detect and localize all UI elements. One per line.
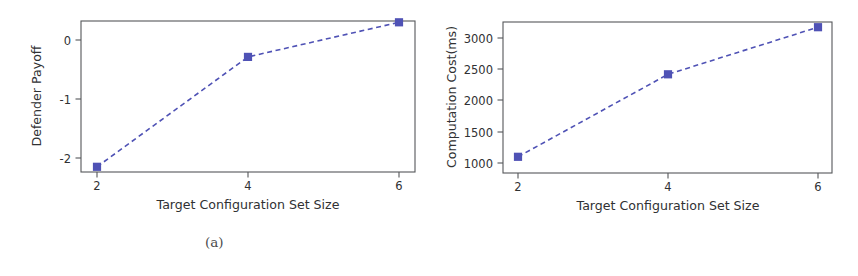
- x-tick-label: 6: [395, 179, 402, 193]
- x-tick-label: 2: [514, 180, 521, 194]
- data-series-line-a: [97, 22, 399, 167]
- x-axis-ticks-a: [97, 172, 399, 178]
- y-axis-ticks-b: [498, 38, 504, 163]
- y-tick-label: 3000: [464, 32, 493, 46]
- plot-frame-a: [81, 21, 415, 172]
- y-tick-label: 1500: [464, 126, 493, 140]
- data-point-marker: [664, 70, 672, 78]
- x-tick-label: 2: [93, 179, 100, 193]
- chart-panel-b: 3000 2500 2000 1500 1000 2 4 6 Target Co…: [430, 0, 858, 276]
- y-tick-label: -1: [60, 93, 71, 107]
- x-tick-label: 6: [814, 180, 821, 194]
- x-axis-label-a: Target Configuration Set Size: [156, 197, 340, 212]
- data-point-marker: [93, 163, 101, 171]
- y-axis-label-a: Defender Payoff: [29, 45, 44, 146]
- computation-cost-chart: 3000 2500 2000 1500 1000 2 4 6 Target Co…: [430, 0, 858, 226]
- figure-container: 0 -1 -2 2 4 6 Target Configuration Set S…: [0, 0, 858, 276]
- data-point-marker: [244, 53, 252, 61]
- y-tick-label: 2500: [464, 63, 493, 77]
- y-axis-label-b: Computation Cost(ms): [444, 26, 459, 168]
- y-tick-label: 1000: [464, 157, 493, 171]
- y-axis-ticks-a: [76, 40, 82, 158]
- y-tick-label: -2: [60, 152, 71, 166]
- x-tick-label: 4: [664, 180, 671, 194]
- data-point-marker: [814, 23, 822, 31]
- subfigure-caption-a: (a): [205, 234, 224, 250]
- y-tick-label: 2000: [464, 94, 493, 108]
- data-series-line-b: [518, 27, 818, 157]
- chart-panel-a: 0 -1 -2 2 4 6 Target Configuration Set S…: [0, 0, 430, 276]
- data-point-marker: [514, 153, 522, 161]
- plot-frame-b: [503, 22, 832, 173]
- x-axis-label-b: Target Configuration Set Size: [576, 198, 760, 213]
- data-point-marker: [395, 18, 403, 26]
- x-tick-label: 4: [244, 179, 251, 193]
- defender-payoff-chart: 0 -1 -2 2 4 6 Target Configuration Set S…: [0, 0, 430, 226]
- x-axis-ticks-b: [518, 173, 818, 179]
- y-tick-label: 0: [64, 34, 71, 48]
